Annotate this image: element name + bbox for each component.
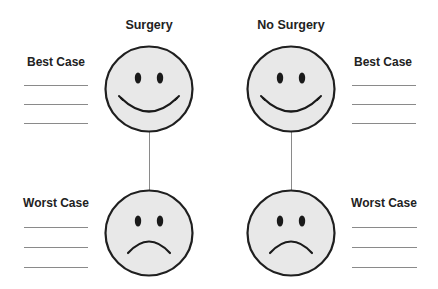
column-title-no-surgery: No Surgery <box>251 18 331 32</box>
column-title-surgery: Surgery <box>119 18 179 32</box>
surgery-best-case-blank-line-1[interactable] <box>24 85 88 86</box>
no-surgery-worst-frowning-face-icon <box>246 189 336 277</box>
surgery-worst-frowning-face-icon <box>104 189 194 277</box>
surgery-best-smiling-face-icon <box>104 45 194 133</box>
surgery-worst-case-label: Worst Case <box>20 196 92 210</box>
no-surgery-best-case-blank-line-1[interactable] <box>352 85 416 86</box>
surgery-best-case-blank-line-3[interactable] <box>24 123 88 124</box>
surgery-best-case-blank-line-2[interactable] <box>24 104 88 105</box>
no-surgery-best-smiling-face-icon <box>246 45 336 133</box>
no-surgery-worst-case-blank-line-2[interactable] <box>352 247 417 248</box>
no-surgery-worst-case-blank-line-3[interactable] <box>352 267 417 268</box>
surgery-worst-case-blank-line-2[interactable] <box>24 247 88 248</box>
no-surgery-best-case-label: Best Case <box>347 55 419 69</box>
no-surgery-worst-case-blank-line-1[interactable] <box>352 227 417 228</box>
surgery-connector-line <box>149 131 150 190</box>
no-surgery-best-case-blank-line-3[interactable] <box>352 123 416 124</box>
surgery-worst-case-blank-line-3[interactable] <box>24 267 88 268</box>
surgery-worst-case-blank-line-1[interactable] <box>24 227 88 228</box>
no-surgery-best-case-blank-line-2[interactable] <box>352 104 416 105</box>
surgery-best-case-label: Best Case <box>20 55 92 69</box>
no-surgery-worst-case-label: Worst Case <box>348 196 420 210</box>
no-surgery-connector-line <box>291 131 292 190</box>
